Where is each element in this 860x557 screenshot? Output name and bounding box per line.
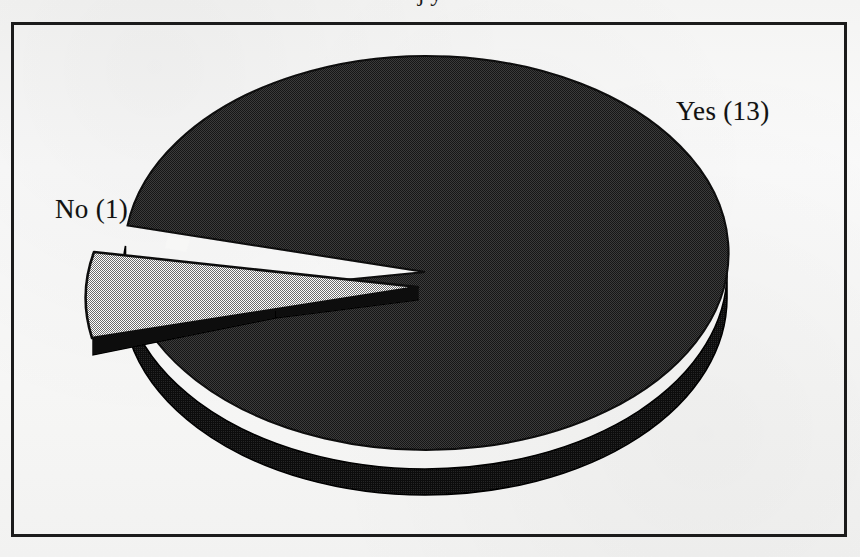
pie-label-yes: Yes (13) <box>676 98 769 125</box>
pie-label-no: No (1) <box>55 196 128 223</box>
pie-chart-canvas <box>0 0 860 557</box>
pie-slice-yes[interactable] <box>128 56 729 450</box>
pie-chart-figure: Yes (13) No (1) <box>0 0 860 557</box>
explode-gap-notch <box>165 236 190 252</box>
